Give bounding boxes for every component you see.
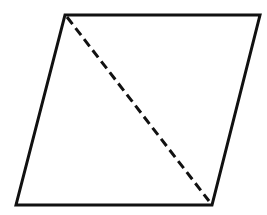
dashed-diagonal	[67, 17, 209, 201]
parallelogram-diagram	[0, 0, 267, 215]
